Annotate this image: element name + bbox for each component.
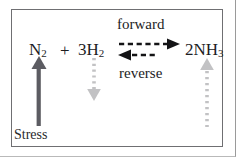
diagram-canvas: N2 + 3H2 2NH3 forward reverse Stress — [0, 0, 237, 158]
n2-stress-arrow — [30, 56, 48, 126]
plus-sign: + — [60, 42, 70, 59]
product-nh3-subscript: 3 — [218, 47, 224, 59]
nh3-shift-arrow — [198, 56, 216, 128]
h2-shift-arrow — [85, 56, 103, 102]
stress-label: Stress — [14, 128, 47, 142]
reverse-rate-arrow — [117, 49, 161, 61]
reverse-rate-label: reverse — [119, 66, 162, 81]
forward-rate-label: forward — [117, 17, 164, 32]
